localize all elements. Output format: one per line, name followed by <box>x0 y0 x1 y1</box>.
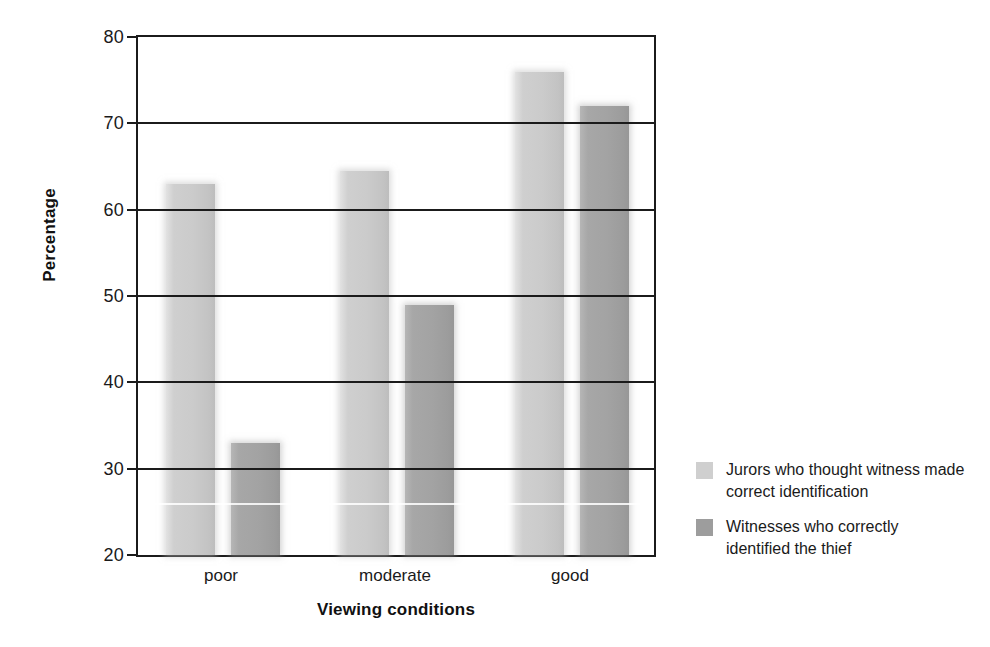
gridline-30 <box>138 468 654 470</box>
y-tick-label-20: 20 <box>103 545 124 566</box>
y-tick-mark-20 <box>127 554 138 556</box>
y-tick-label-60: 60 <box>103 199 124 220</box>
legend-entry-witnesses: Witnesses who correctly identified the t… <box>696 516 976 559</box>
bar-good-series1 <box>515 72 564 555</box>
legend-swatch-icon-witnesses <box>696 519 713 536</box>
bar-good-series2 <box>580 106 629 555</box>
legend-label-witnesses: Witnesses who correctly identified the t… <box>726 516 966 559</box>
y-tick-mark-30 <box>127 468 138 470</box>
plot-area: 20304050607080 <box>136 35 656 557</box>
bar-poor-series1 <box>166 184 215 555</box>
y-tick-label-50: 50 <box>103 286 124 307</box>
y-tick-mark-50 <box>127 295 138 297</box>
scan-artifact-line <box>138 503 654 505</box>
x-tick-label-good: good <box>551 566 589 586</box>
y-tick-label-40: 40 <box>103 372 124 393</box>
x-tick-label-moderate: moderate <box>359 566 431 586</box>
bar-chart-figure: Percentage 20304050607080 poor moderate … <box>0 0 990 647</box>
legend-label-jurors: Jurors who thought witness made correct … <box>726 459 966 502</box>
x-axis-title: Viewing conditions <box>136 600 656 620</box>
y-tick-mark-40 <box>127 381 138 383</box>
y-tick-mark-80 <box>127 36 138 38</box>
y-tick-label-80: 80 <box>103 27 124 48</box>
gridline-50 <box>138 295 654 297</box>
x-tick-label-poor: poor <box>204 566 238 586</box>
y-axis-title: Percentage <box>40 145 60 325</box>
gridline-60 <box>138 209 654 211</box>
y-tick-mark-70 <box>127 122 138 124</box>
legend: Jurors who thought witness made correct … <box>696 459 976 573</box>
bar-poor-series2 <box>231 443 280 555</box>
legend-entry-jurors: Jurors who thought witness made correct … <box>696 459 976 502</box>
legend-swatch-icon-jurors <box>696 462 713 479</box>
y-tick-label-30: 30 <box>103 458 124 479</box>
gridline-40 <box>138 381 654 383</box>
gridline-70 <box>138 122 654 124</box>
bar-moderate-series2 <box>405 305 454 555</box>
bar-moderate-series1 <box>340 171 389 555</box>
y-tick-label-70: 70 <box>103 113 124 134</box>
y-tick-mark-60 <box>127 209 138 211</box>
